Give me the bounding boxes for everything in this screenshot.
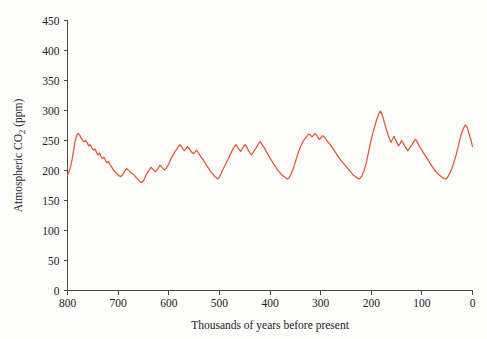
x-axis-ticks: 8007006005004003002001000 (59, 291, 476, 309)
x-tick-label: 300 (312, 297, 330, 309)
y-tick-label: 450 (42, 15, 60, 27)
x-tick-label: 200 (363, 297, 381, 309)
x-tick-label: 600 (160, 297, 178, 309)
y-tick-label: 300 (42, 105, 60, 117)
chart-canvas: 050100150200250300350400450 800700600500… (0, 0, 487, 339)
co2-data-line (68, 111, 473, 182)
y-tick-label: 0 (54, 285, 60, 297)
x-tick-label: 800 (59, 297, 77, 309)
x-tick-label: 700 (110, 297, 128, 309)
x-tick-label: 100 (413, 297, 431, 309)
y-tick-label: 400 (42, 45, 60, 57)
x-tick-label: 400 (261, 297, 279, 309)
x-tick-label: 0 (470, 297, 476, 309)
y-tick-label: 150 (42, 195, 60, 207)
y-axis-ticks: 050100150200250300350400450 (42, 15, 67, 297)
y-tick-label: 350 (42, 75, 60, 87)
y-tick-label: 250 (42, 135, 60, 147)
co2-chart-figure: 050100150200250300350400450 800700600500… (0, 0, 487, 339)
y-axis-title: Atmospheric CO2 (ppm) (12, 99, 27, 213)
y-tick-label: 200 (42, 165, 60, 177)
y-tick-label: 100 (42, 225, 60, 237)
y-tick-label: 50 (48, 255, 60, 267)
x-axis-title: Thousands of years before present (191, 319, 350, 332)
x-tick-label: 500 (211, 297, 229, 309)
